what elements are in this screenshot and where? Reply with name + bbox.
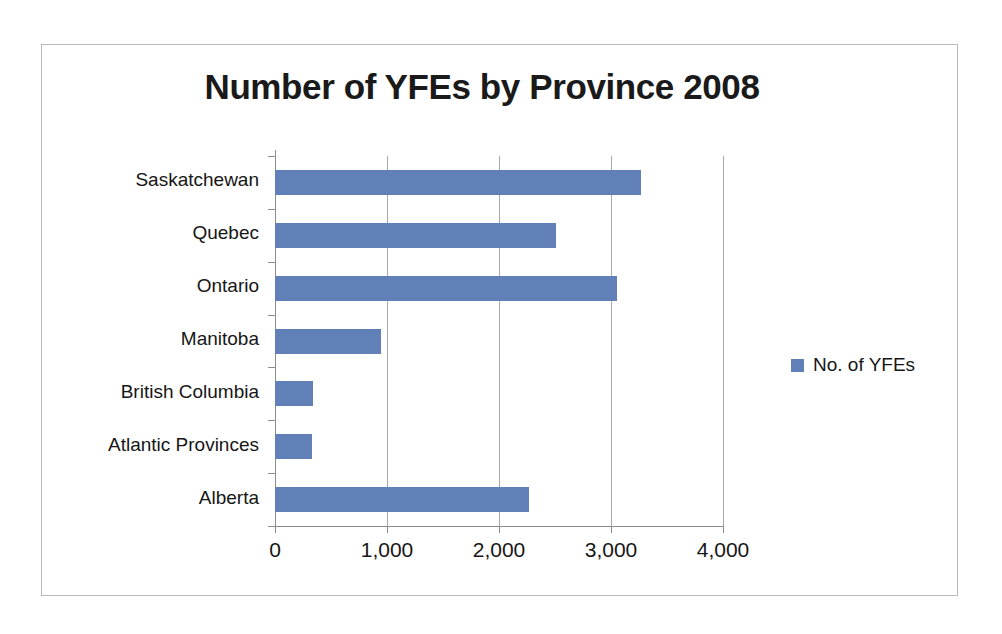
chart-page: Number of YFEs by Province 2008 Saskatch… (0, 0, 1002, 634)
legend-label: No. of YFEs (813, 354, 915, 376)
x-axis-tick-label: 4,000 (668, 538, 778, 562)
category-label: British Columbia (29, 381, 259, 403)
bar[interactable] (275, 170, 641, 195)
category-label: Quebec (29, 222, 259, 244)
x-axis-tick-label: 0 (220, 538, 330, 562)
y-axis-tick (268, 262, 275, 263)
legend-swatch-icon (791, 359, 804, 372)
category-label: Alberta (29, 487, 259, 509)
y-axis-tick (268, 420, 275, 421)
bar[interactable] (275, 487, 529, 512)
chart-legend: No. of YFEs (791, 354, 915, 376)
x-axis-tick (499, 526, 500, 533)
y-axis-tick (268, 473, 275, 474)
chart-title: Number of YFEs by Province 2008 (42, 67, 922, 107)
bar[interactable] (275, 276, 617, 301)
y-axis-tick (268, 526, 275, 527)
x-axis-tick-label: 1,000 (332, 538, 442, 562)
y-axis-tick (268, 315, 275, 316)
x-axis-tick-label: 3,000 (556, 538, 666, 562)
category-label: Manitoba (29, 328, 259, 350)
bar-row (275, 315, 723, 368)
x-axis-tick (611, 526, 612, 533)
category-tick-labels: SaskatchewanQuebecOntarioManitobaBritish… (35, 156, 267, 526)
x-axis-line (269, 526, 724, 527)
bar[interactable] (275, 329, 381, 354)
bar-row (275, 473, 723, 526)
x-axis-tick (723, 526, 724, 533)
bar[interactable] (275, 223, 556, 248)
x-axis-tick (387, 526, 388, 533)
bar-row (275, 367, 723, 420)
chart-frame: Number of YFEs by Province 2008 Saskatch… (41, 44, 958, 596)
bar-row (275, 420, 723, 473)
category-label: Ontario (29, 275, 259, 297)
plot-area: SaskatchewanQuebecOntarioManitobaBritish… (275, 156, 723, 526)
y-axis-tick (268, 156, 275, 157)
bar-row (275, 156, 723, 209)
category-label: Atlantic Provinces (29, 434, 259, 456)
y-axis-tick (268, 367, 275, 368)
category-label: Saskatchewan (29, 169, 259, 191)
bar-row (275, 262, 723, 315)
bar-row (275, 209, 723, 262)
x-axis-tick (275, 526, 276, 533)
gridline (723, 156, 724, 526)
x-axis-tick-label: 2,000 (444, 538, 554, 562)
y-axis-tick (268, 209, 275, 210)
bar[interactable] (275, 434, 312, 459)
bar[interactable] (275, 381, 313, 406)
